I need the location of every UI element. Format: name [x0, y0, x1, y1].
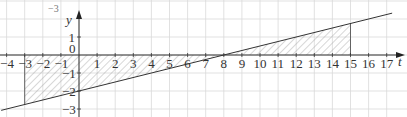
svg-text:−4: −4: [0, 56, 14, 71]
x-axis-label: t: [398, 54, 402, 69]
svg-text:3: 3: [130, 56, 137, 71]
svg-text:−3: −3: [62, 102, 76, 117]
graph: −4−3−2−1012345678910111213141516171−1−2−…: [0, 0, 407, 117]
svg-text:12: 12: [290, 56, 303, 71]
svg-text:−2: −2: [62, 84, 76, 99]
svg-text:17: 17: [380, 56, 394, 71]
svg-text:4: 4: [148, 56, 155, 71]
y-axis-label: y: [64, 12, 72, 27]
svg-text:−1: −1: [62, 66, 76, 81]
svg-text:1: 1: [94, 56, 101, 71]
svg-text:11: 11: [272, 56, 285, 71]
svg-text:8: 8: [221, 56, 228, 71]
svg-text:7: 7: [202, 56, 209, 71]
svg-text:14: 14: [326, 56, 340, 71]
cropped-label: −3: [48, 3, 59, 14]
svg-text:2: 2: [112, 56, 119, 71]
svg-text:−2: −2: [36, 56, 50, 71]
svg-text:16: 16: [362, 56, 376, 71]
svg-text:−3: −3: [18, 56, 32, 71]
svg-text:9: 9: [239, 56, 246, 71]
svg-text:6: 6: [184, 56, 191, 71]
svg-text:1: 1: [69, 30, 76, 45]
svg-text:5: 5: [166, 56, 173, 71]
svg-text:13: 13: [308, 56, 321, 71]
svg-text:10: 10: [254, 56, 267, 71]
svg-text:15: 15: [344, 56, 357, 71]
